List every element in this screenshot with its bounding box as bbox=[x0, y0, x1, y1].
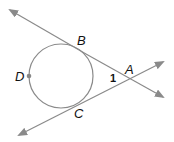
point-D-dot bbox=[27, 74, 32, 79]
circle bbox=[29, 44, 93, 108]
angle-1-label: 1 bbox=[110, 73, 116, 84]
geometry-diagram: B A D C 1 bbox=[0, 0, 174, 142]
label-B: B bbox=[77, 34, 86, 47]
diagram-canvas bbox=[0, 0, 174, 142]
label-C: C bbox=[74, 107, 83, 120]
label-D: D bbox=[15, 70, 24, 83]
label-A: A bbox=[125, 63, 134, 76]
